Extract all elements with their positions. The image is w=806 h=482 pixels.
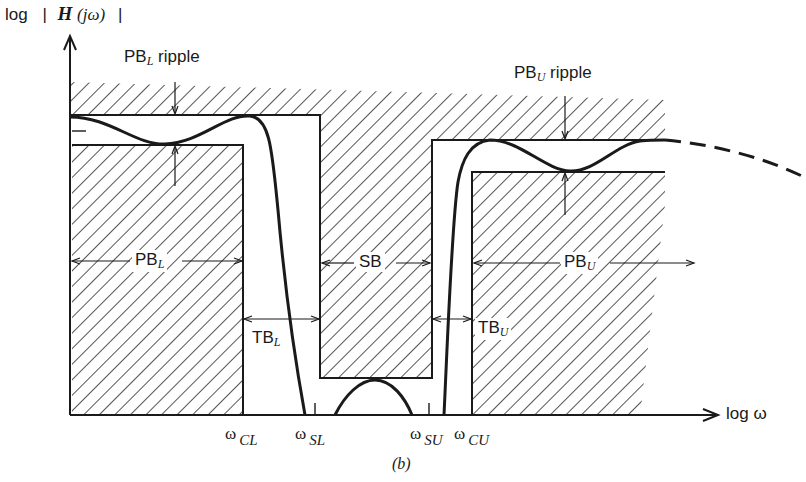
y-axis-label-log: log — [5, 5, 28, 24]
y-axis-label-bar-close: | — [118, 5, 122, 24]
pb-lower-forbidden-region — [72, 145, 243, 415]
tick-label-omega-sl: ωSL — [295, 424, 325, 449]
filter-tolerance-diagram — [0, 0, 806, 482]
response-extension-dashed — [665, 140, 806, 178]
tick-label-omega-su: ωSU — [410, 424, 443, 449]
y-axis-label-func: H — [58, 3, 73, 24]
pb-upper-ripple-label: PBU ripple — [514, 63, 592, 85]
pb-lower-label: PBL — [132, 250, 167, 272]
pb-lower-ripple-label: PBL ripple — [124, 47, 200, 69]
figure-caption: (b) — [392, 455, 411, 473]
pb-upper-forbidden-region — [472, 172, 665, 415]
tick-label-omega-cu: ωCU — [454, 424, 489, 449]
tb-upper-label: TBU — [475, 318, 511, 340]
y-axis-label: log | H (jω) | — [5, 3, 122, 25]
pb-upper-label: PBU — [561, 252, 598, 274]
stopband-label: SB — [356, 252, 385, 272]
tb-lower-label: TBL — [249, 328, 283, 350]
y-axis-label-arg: (jω) — [77, 5, 105, 24]
y-axis-label-bar-open: | — [42, 5, 46, 24]
x-axis-label: log ω — [726, 404, 767, 424]
tick-label-omega-cl: ωCL — [225, 424, 258, 449]
